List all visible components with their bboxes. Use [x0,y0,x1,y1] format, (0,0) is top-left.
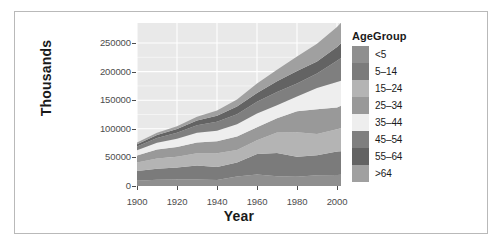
x-tick-label: 1900 [127,196,148,207]
legend-items: <55–1415–2425–3435–4445–5455–64>64 [352,46,472,182]
y-tick-label: 200000 [100,66,131,77]
y-tick-mark [132,157,136,158]
legend-title: AgeGroup [352,30,472,42]
figure-frame: Thousands 050000100000150000200000250000… [14,11,488,234]
y-tick-label: 250000 [100,37,131,48]
legend-label: 25–34 [375,100,402,111]
stacked-area-svg [137,23,341,186]
legend-label: 35–44 [375,117,402,128]
legend-item: 5–14 [352,63,472,80]
x-tick-label: 1960 [247,196,268,207]
legend-item: 55–64 [352,148,472,165]
x-tick-label: 1980 [287,196,308,207]
legend-swatch-icon [352,114,369,131]
legend-swatch-icon [352,80,369,97]
legend-item: 15–24 [352,80,472,97]
chart-panel [137,23,341,186]
legend-swatch-icon [352,63,369,80]
legend-label: 15–24 [375,83,402,94]
y-tick-label: 50000 [105,151,131,162]
x-tick-label: 1940 [207,196,228,207]
legend: AgeGroup <55–1415–2425–3435–4445–5455–64… [352,30,472,182]
x-tick-mark [257,186,258,190]
y-tick-mark [132,186,136,187]
legend-item: 25–34 [352,97,472,114]
y-axis-tick-labels: 050000100000150000200000250000 [71,12,131,235]
legend-item: <5 [352,46,472,63]
x-axis-tick-labels: 190019201940196019802000 [137,192,341,208]
legend-label: >64 [375,168,392,179]
legend-swatch-icon [352,97,369,114]
legend-label: 5–14 [375,66,397,77]
legend-item: 45–54 [352,131,472,148]
x-tick-mark [177,186,178,190]
legend-swatch-icon [352,165,369,182]
x-tick-mark [137,186,138,190]
y-axis-title: Thousands [38,23,54,133]
x-tick-label: 2000 [327,196,348,207]
y-tick-label: 100000 [100,123,131,134]
legend-label: 55–64 [375,151,402,162]
y-tick-mark [132,100,136,101]
x-tick-mark [297,186,298,190]
y-tick-label: 150000 [100,94,131,105]
legend-label: <5 [375,49,386,60]
legend-swatch-icon [352,46,369,63]
legend-item: >64 [352,165,472,182]
x-tick-mark [337,186,338,190]
legend-label: 45–54 [375,134,402,145]
y-tick-mark [132,72,136,73]
y-tick-label: 0 [126,180,131,191]
legend-swatch-icon [352,131,369,148]
x-axis-title: Year [137,208,341,224]
legend-item: 35–44 [352,114,472,131]
legend-swatch-icon [352,148,369,165]
y-tick-mark [132,43,136,44]
x-tick-label: 1920 [167,196,188,207]
y-tick-mark [132,129,136,130]
x-tick-mark [217,186,218,190]
